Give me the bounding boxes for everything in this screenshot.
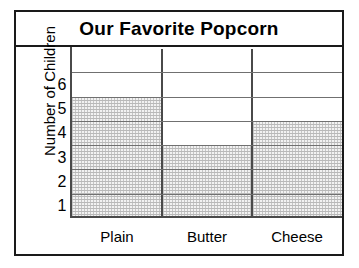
y-tick-label-5: 5 bbox=[54, 97, 70, 121]
y-tick-label-4: 4 bbox=[54, 121, 70, 145]
x-tick-label-butter: Butter bbox=[162, 229, 252, 244]
chart-title: Our Favorite Popcorn bbox=[79, 19, 278, 38]
plot-area bbox=[72, 49, 342, 218]
y-tick-label-2: 2 bbox=[54, 170, 70, 194]
y-axis-tick-labels: 6 5 4 3 2 1 bbox=[54, 49, 70, 218]
bar-cheese[interactable] bbox=[253, 121, 342, 218]
bars-layer bbox=[72, 49, 342, 218]
bar-plain[interactable] bbox=[72, 97, 161, 218]
x-axis-line bbox=[70, 216, 342, 218]
x-tick-label-plain: Plain bbox=[72, 229, 162, 244]
x-axis-tick-labels: Plain Butter Cheese bbox=[72, 218, 342, 254]
chart-title-band: Our Favorite Popcorn bbox=[16, 12, 342, 47]
y-tick-label-1: 1 bbox=[54, 194, 70, 218]
chart-frame: Our Favorite Popcorn Number of Children … bbox=[14, 10, 344, 256]
bar-column-cheese[interactable] bbox=[253, 49, 342, 218]
y-tick-label-6: 6 bbox=[54, 73, 70, 97]
chart-body: Number of Children 6 5 4 3 2 1 bbox=[16, 47, 342, 254]
y-tick-label-3: 3 bbox=[54, 146, 70, 170]
bar-column-butter[interactable] bbox=[163, 49, 254, 218]
x-tick-label-cheese: Cheese bbox=[252, 229, 342, 244]
bar-column-plain[interactable] bbox=[72, 49, 163, 218]
bar-butter[interactable] bbox=[163, 146, 252, 218]
